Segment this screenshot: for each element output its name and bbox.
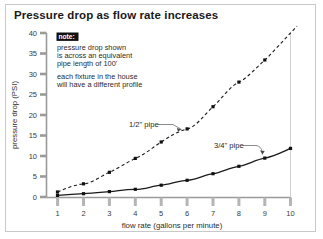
y-tick-label: 0 bbox=[33, 193, 37, 202]
data-point bbox=[237, 81, 240, 84]
series-three-quarter-line bbox=[58, 148, 291, 195]
data-point bbox=[56, 194, 59, 197]
y-tick-label: 40 bbox=[29, 29, 37, 38]
screenshot-root: Pressure drop as flow rate increases bbox=[0, 0, 323, 239]
x-tick-label: 5 bbox=[159, 209, 163, 218]
data-point bbox=[211, 172, 214, 175]
y-tick-label: 20 bbox=[29, 111, 37, 120]
x-tick-marks bbox=[58, 198, 291, 207]
x-tick-label: 4 bbox=[133, 209, 137, 218]
data-point bbox=[186, 179, 189, 182]
y-tick-label: 30 bbox=[29, 70, 37, 79]
x-tick-label: 7 bbox=[211, 209, 215, 218]
x-axis-title: flow rate (gallons per minute) bbox=[122, 221, 223, 230]
y-tick-label: 35 bbox=[29, 49, 37, 58]
y-tick-label: 5 bbox=[33, 172, 37, 181]
data-point bbox=[237, 165, 240, 168]
chart-svg: 40 35 30 25 20 15 10 5 0 bbox=[0, 0, 323, 239]
data-point bbox=[134, 188, 137, 191]
series-half-inch-annotation: 1/2" pipe bbox=[129, 120, 182, 132]
data-point bbox=[56, 190, 59, 193]
data-point bbox=[82, 192, 85, 195]
y-axis-title: pressure drop (PSI) bbox=[10, 81, 19, 149]
data-point bbox=[186, 127, 189, 130]
data-point bbox=[263, 58, 266, 61]
x-tick-label: 9 bbox=[263, 209, 267, 218]
note-line: pipe length of 100' bbox=[57, 59, 118, 68]
x-tick-label: 2 bbox=[81, 209, 85, 218]
data-point bbox=[134, 157, 137, 160]
data-point bbox=[263, 157, 266, 160]
x-tick-label: 1 bbox=[56, 209, 60, 218]
series-label-half-inch: 1/2" pipe bbox=[129, 120, 159, 129]
chart-plot-area: 40 35 30 25 20 15 10 5 0 bbox=[0, 0, 323, 239]
data-point bbox=[108, 190, 111, 193]
y-tick-labels: 40 35 30 25 20 15 10 5 0 bbox=[29, 29, 37, 202]
y-tick-marks bbox=[40, 33, 47, 197]
data-point bbox=[160, 140, 163, 143]
series-label-three-quarter: 3/4" pipe bbox=[214, 141, 244, 150]
x-tick-label: 8 bbox=[237, 209, 241, 218]
data-point bbox=[108, 171, 111, 174]
note-line: will have a different profile bbox=[56, 80, 142, 89]
y-tick-label: 10 bbox=[29, 152, 37, 161]
x-tick-labels: 1 2 3 4 5 6 7 8 9 10 bbox=[56, 209, 295, 218]
x-tick-label: 6 bbox=[185, 209, 189, 218]
series-three-quarter-pipe bbox=[56, 147, 292, 197]
x-tick-label: 10 bbox=[286, 209, 294, 218]
y-tick-label: 25 bbox=[29, 90, 37, 99]
note-badge-label: note: bbox=[59, 33, 75, 40]
series-three-quarter-annotation: 3/4" pipe bbox=[214, 141, 265, 155]
data-point bbox=[289, 147, 292, 150]
data-point bbox=[160, 184, 163, 187]
x-tick-label: 3 bbox=[107, 209, 111, 218]
data-point bbox=[82, 182, 85, 185]
y-tick-label: 15 bbox=[29, 131, 37, 140]
data-point bbox=[211, 105, 214, 108]
note-annotation: note: pressure drop shown is across an e… bbox=[56, 33, 142, 89]
